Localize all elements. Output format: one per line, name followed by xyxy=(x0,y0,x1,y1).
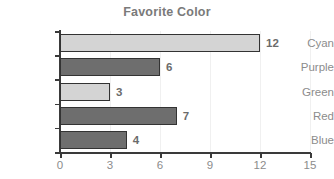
bar-row[interactable]: 4 xyxy=(60,131,310,149)
bar-value-label: 3 xyxy=(116,86,122,98)
bar-row[interactable]: 12 xyxy=(60,34,310,52)
x-axis-tick-label: 9 xyxy=(195,159,225,171)
bar-row[interactable]: 7 xyxy=(60,107,310,125)
x-axis-tick-label: 0 xyxy=(45,159,75,171)
bar-value-label: 12 xyxy=(266,37,279,49)
bar-value-label: 4 xyxy=(133,134,139,146)
bar[interactable] xyxy=(60,34,260,52)
x-axis-tick xyxy=(310,153,312,158)
x-axis-tick xyxy=(110,153,112,158)
x-axis-tick xyxy=(260,153,262,158)
bar-value-label: 7 xyxy=(183,110,189,122)
chart-title: Favorite Color xyxy=(0,5,334,19)
bar-row[interactable]: 6 xyxy=(60,58,310,76)
x-axis-tick-label: 3 xyxy=(95,159,125,171)
plot-area: 126374 xyxy=(60,31,310,153)
x-axis-tick xyxy=(210,153,212,158)
bar[interactable] xyxy=(60,131,127,149)
bar-row[interactable]: 3 xyxy=(60,83,310,101)
x-axis-tick xyxy=(160,153,162,158)
bar-value-label: 6 xyxy=(166,61,172,73)
bar-chart: Favorite Color CyanPurpleGreenRedBlue 12… xyxy=(0,0,334,179)
bar[interactable] xyxy=(60,58,160,76)
bar[interactable] xyxy=(60,107,177,125)
x-axis-tick xyxy=(60,153,62,158)
bar[interactable] xyxy=(60,83,110,101)
x-axis-tick-label: 12 xyxy=(245,159,275,171)
x-axis-tick-label: 15 xyxy=(295,159,325,171)
x-axis-tick-label: 6 xyxy=(145,159,175,171)
